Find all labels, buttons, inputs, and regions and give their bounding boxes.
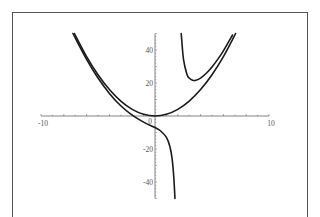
y-tick-label: -20 [143,145,153,154]
x-tick-label: 10 [267,119,275,128]
curve-rational-right-branch [181,34,232,81]
x-tick-label: -10 [38,119,48,128]
x-tick-label: 0 [148,117,152,126]
y-tick-label: 20 [146,79,154,88]
plot-area: -100104020-20-40 [0,0,320,217]
y-tick-label: 40 [146,46,154,55]
y-tick-label: -40 [143,178,153,187]
